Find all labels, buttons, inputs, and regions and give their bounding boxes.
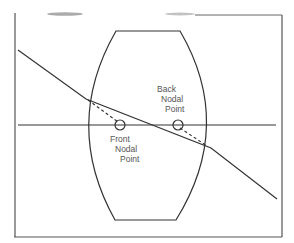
back-nodal-point-label: Back Nodal Point [157,84,184,114]
front-nodal-point-label: Front Nodal Point [110,134,139,164]
back-label-line2: Nodal [161,94,184,104]
back-label-line1: Back [157,84,184,94]
nodal-point-diagram [0,0,294,243]
front-dashed-line [88,100,118,122]
front-label-line3: Point [120,154,139,164]
back-label-line3: Point [165,104,184,114]
front-label-line1: Front [110,134,139,144]
front-label-line2: Nodal [115,144,139,154]
